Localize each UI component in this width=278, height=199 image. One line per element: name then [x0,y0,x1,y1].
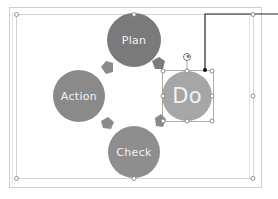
check-label: Check [116,146,151,159]
diagram-svg [0,0,278,199]
do-label: Do [172,84,202,108]
connector-line[interactable] [205,14,278,70]
action-label: Action [61,90,97,103]
plan-label: Plan [122,34,147,47]
arrow-plan-to-do[interactable] [152,57,165,69]
slide-canvas[interactable]: Plan Do Check Action [0,0,278,199]
arrow-check-to-action[interactable] [101,117,114,129]
arrow-action-to-plan[interactable] [101,61,113,74]
connector-endpoint[interactable] [203,68,207,72]
rotate-handle-dot [187,55,190,58]
